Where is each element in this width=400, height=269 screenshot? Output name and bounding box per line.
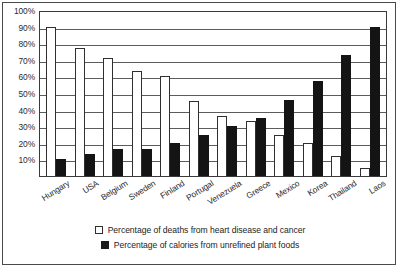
bar-calories: [170, 143, 180, 176]
bar-deaths: [360, 168, 370, 176]
bar-deaths: [132, 71, 142, 176]
bar-group: [42, 12, 71, 176]
bar-deaths: [46, 27, 56, 176]
y-axis-tick-label: 90%: [19, 23, 35, 33]
legend-item-deaths: Percentage of deaths from heart disease …: [3, 222, 397, 237]
bar-group: [185, 12, 214, 176]
y-axis-tick-label: 30%: [19, 122, 35, 132]
x-axis-tick-label: Thailand: [326, 178, 358, 203]
y-axis-tick-label: 80%: [19, 39, 35, 49]
y-axis-tick-label: 70%: [19, 56, 35, 66]
x-axis-tick-label: Greece: [244, 178, 272, 201]
bar-group: [299, 12, 328, 176]
chart-page-frame: 10%20%30%40%50%60%70%80%90%100% HungaryU…: [2, 2, 396, 265]
bar-calories: [341, 55, 351, 176]
x-axis-tick-label: Belgium: [99, 178, 129, 202]
bar-deaths: [217, 116, 227, 176]
y-axis-tick-label: 10%: [19, 155, 35, 165]
bar-group: [71, 12, 100, 176]
y-axis-tick-label: 20%: [19, 139, 35, 149]
x-axis-tick-label: Hungary: [40, 178, 72, 203]
chart-legend: Percentage of deaths from heart disease …: [3, 222, 397, 252]
bar-calories: [142, 149, 152, 176]
bar-deaths: [274, 135, 284, 177]
y-axis-tick-label: 60%: [19, 72, 35, 82]
bar-deaths: [331, 156, 341, 176]
bar-group: [356, 12, 385, 176]
bar-group: [213, 12, 242, 176]
x-axis-tick-label: Laos: [367, 178, 387, 196]
legend-label-deaths: Percentage of deaths from heart disease …: [108, 225, 306, 235]
x-axis-tick-label: Sweden: [127, 178, 157, 202]
y-axis-tick-label: 50%: [19, 89, 35, 99]
bar-chart: 10%20%30%40%50%60%70%80%90%100% HungaryU…: [3, 3, 397, 266]
y-axis-tick-label: 40%: [19, 106, 35, 116]
bar-deaths: [246, 121, 256, 176]
x-axis-tick-label: Mexico: [274, 178, 301, 200]
y-axis-tick-label: 100%: [14, 6, 35, 16]
legend-item-calories: Percentage of calories from unrefined pl…: [3, 237, 397, 252]
bar-group: [327, 12, 356, 176]
plot-area: [39, 11, 387, 177]
x-axis-tick-label: Finland: [158, 178, 186, 201]
legend-swatch-white-square: [95, 226, 103, 234]
bar-deaths: [189, 101, 199, 176]
bar-calories: [227, 126, 237, 176]
bar-deaths: [75, 48, 85, 176]
bar-group: [99, 12, 128, 176]
bar-calories: [56, 159, 66, 176]
bar-calories: [113, 149, 123, 176]
bars-layer: [40, 12, 386, 176]
bar-calories: [85, 154, 95, 176]
bar-calories: [256, 118, 266, 176]
bar-group: [156, 12, 185, 176]
y-axis: 10%20%30%40%50%60%70%80%90%100%: [3, 11, 37, 177]
bar-deaths: [103, 58, 113, 176]
bar-calories: [370, 27, 380, 176]
bar-deaths: [303, 143, 313, 176]
x-axis: HungaryUSABelgiumSwedenFinlandPortugalVe…: [39, 178, 387, 218]
bar-calories: [199, 135, 209, 177]
x-axis-tick-label: USA: [81, 178, 101, 195]
legend-swatch-black-square: [101, 241, 109, 249]
bar-group: [242, 12, 271, 176]
bar-calories: [284, 100, 294, 176]
bar-calories: [313, 81, 323, 176]
legend-label-calories: Percentage of calories from unrefined pl…: [114, 240, 299, 250]
bar-group: [270, 12, 299, 176]
bar-group: [128, 12, 157, 176]
bar-deaths: [160, 76, 170, 176]
